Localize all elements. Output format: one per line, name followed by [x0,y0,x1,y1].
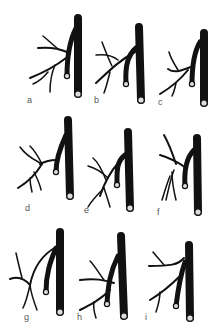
panel-label-e: e [84,206,89,215]
panel-label-a: a [27,96,32,105]
panel-b-drawing [96,27,141,100]
panel-label-d: d [25,204,30,213]
panel-g-drawing [10,232,60,312]
panel-label-c: c [158,98,163,107]
panel-c-drawing [160,33,204,103]
panel-i-drawing [149,245,190,318]
panel-d-drawing [18,120,70,196]
panel-label-h: h [77,313,82,322]
panel-e-drawing [88,132,130,208]
panel-h-drawing [80,236,124,318]
panel-a-drawing [30,18,78,94]
vessel-branching-diagram [0,0,217,336]
panel-label-i: i [145,313,147,322]
panel-f-drawing [160,135,198,212]
panel-label-g: g [24,313,29,322]
panel-label-b: b [94,96,99,105]
panel-label-f: f [157,208,160,217]
